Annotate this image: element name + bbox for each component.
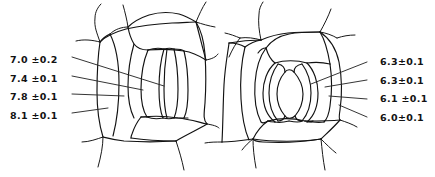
figure-background [0, 0, 435, 177]
measurement-label-l2: 7.4 ±0.1 [10, 73, 58, 84]
measurement-label-r4: 6.0±0.1 [380, 112, 424, 123]
measurement-label-l4: 8.1 ±0.1 [10, 110, 58, 121]
measurement-label-r2: 6.3±0.1 [380, 75, 424, 86]
measurement-label-r1: 6.3±0.1 [380, 56, 424, 67]
measurement-label-r3: 6.1 ±0.1 [380, 93, 428, 104]
measurement-label-l3: 7.8 ±0.1 [10, 91, 58, 102]
stomata-measurement-figure: 7.0 ±0.2 7.4 ±0.1 7.8 ±0.1 8.1 ±0.1 [0, 0, 435, 177]
figure-canvas: 7.0 ±0.2 7.4 ±0.1 7.8 ±0.1 8.1 ±0.1 [0, 0, 435, 177]
measurement-label-l1: 7.0 ±0.2 [10, 54, 58, 65]
